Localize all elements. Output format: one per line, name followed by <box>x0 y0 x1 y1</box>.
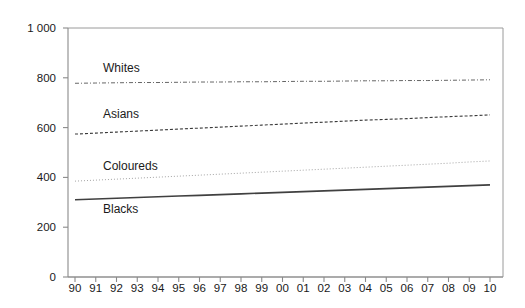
series-label-coloureds: Coloureds <box>103 159 158 173</box>
x-axis-tick-label: 96 <box>193 282 206 294</box>
x-axis-tick-label: 05 <box>380 282 393 294</box>
x-axis-tick-label: 02 <box>318 282 331 294</box>
x-axis-tick-label: 97 <box>214 282 227 294</box>
y-axis-tick-label: 200 <box>37 221 56 233</box>
series-line-whites <box>75 80 490 83</box>
x-axis-tick-label: 00 <box>276 282 289 294</box>
x-axis-tick-label: 98 <box>235 282 248 294</box>
x-axis-tick-label: 04 <box>359 282 372 294</box>
y-axis-tick-label: 800 <box>37 72 56 84</box>
series-label-asians: Asians <box>103 107 139 121</box>
chart-canvas: 1 00080060040020009091929394959697989900… <box>0 0 525 308</box>
series-label-whites: Whites <box>103 61 140 75</box>
x-axis-tick-label: 94 <box>152 282 165 294</box>
y-axis-tick-label: 1 000 <box>27 22 56 34</box>
x-axis-tick-label: 93 <box>131 282 144 294</box>
x-axis-tick-label: 99 <box>255 282 268 294</box>
y-axis-tick-label: 0 <box>50 271 56 283</box>
x-axis-tick-label: 95 <box>172 282 185 294</box>
x-axis-tick-label: 09 <box>463 282 476 294</box>
y-axis-tick-label: 600 <box>37 122 56 134</box>
series-label-blacks: Blacks <box>103 202 138 216</box>
series-line-blacks <box>75 185 490 200</box>
x-axis-tick-label: 92 <box>110 282 123 294</box>
x-axis-tick-label: 91 <box>89 282 102 294</box>
line-chart: 1 00080060040020009091929394959697989900… <box>0 0 525 308</box>
x-axis-tick-label: 08 <box>442 282 455 294</box>
y-axis-tick-label: 400 <box>37 171 56 183</box>
x-axis-tick-label: 07 <box>421 282 434 294</box>
x-axis-tick-label: 90 <box>69 282 82 294</box>
x-axis-tick-label: 03 <box>338 282 351 294</box>
x-axis-tick-label: 06 <box>401 282 414 294</box>
x-axis-tick-label: 01 <box>297 282 310 294</box>
x-axis-tick-label: 10 <box>484 282 497 294</box>
